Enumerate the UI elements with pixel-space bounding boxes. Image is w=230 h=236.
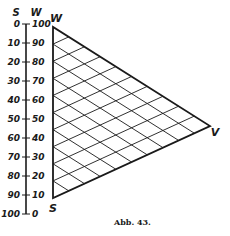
grid-line [53,57,100,79]
scale-tick-label-s: 50 [7,114,20,124]
scale-tick-label-w: 30 [32,152,45,162]
triangle: W S V [49,12,221,215]
scale-tick-label-s: 70 [7,152,20,162]
scale-tick-label-w: 0 [32,209,38,219]
scale-tick-label-w: 40 [31,133,45,143]
grid-line [53,78,163,147]
scale-tick-label-w: 90 [32,38,45,48]
scale-tick-label-s: 60 [7,133,20,143]
grid-line [53,96,163,146]
scale-tick-label-w: 10 [32,190,45,200]
scale-tick-label-w: 60 [32,95,45,105]
triangle-grid [53,37,194,191]
scale-header-s: S [12,7,19,18]
scale-tick-label-w: 20 [32,171,45,181]
scale-tick-label-s: 20 [7,57,20,67]
scale-tick-label-s: 100 [1,209,20,219]
composition-scale: S W 010010902080307040605050604070308020… [1,7,51,219]
grid-line [53,37,69,44]
scale-tick-label-s: 40 [6,95,20,105]
grid-line [53,181,69,191]
grid-line [53,106,179,164]
vertex-label-s: S [49,202,57,215]
scale-tick-label-s: 10 [7,38,20,48]
scale-tick-label-s: 30 [7,76,20,86]
triangle-outline [53,27,210,198]
scale-tick-label-s: 0 [14,19,20,29]
grid-line [53,147,100,177]
scale-tick-label-w: 70 [32,76,45,86]
ternary-diagram: S W 010010902080307040605050604070308020… [0,0,230,236]
grid-line [53,61,179,140]
grid-line [53,77,132,113]
figure-caption: Abb. 43. [113,217,151,227]
scale-tick-label-s: 90 [7,190,20,200]
vertex-label-v: V [211,126,221,139]
scale-tick-label-w: 50 [32,114,45,124]
scale-tick-label-w: 80 [32,57,45,67]
scale-header-w: W [30,7,42,18]
vertex-label-w: W [50,12,63,25]
scale-tick-label-w: 100 [32,19,51,29]
scale-tick-label-s: 80 [7,171,20,181]
